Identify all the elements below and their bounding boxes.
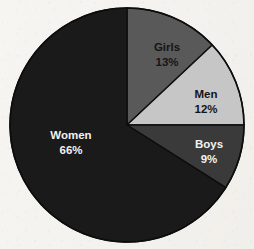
slice-label-name: Women <box>50 129 91 141</box>
slice-label-value: 9% <box>201 153 218 165</box>
slice-label-name: Girls <box>154 41 180 53</box>
slice-label-value: 66% <box>59 144 82 156</box>
slice-label-name: Boys <box>195 138 223 150</box>
pie-chart: Girls13%Men12%Boys9%Women66% <box>0 0 254 249</box>
pie-slice-layer <box>10 8 244 242</box>
slice-label-value: 13% <box>155 56 178 68</box>
slice-label-value: 12% <box>194 103 217 115</box>
pie-chart-svg: Girls13%Men12%Boys9%Women66% <box>0 0 254 249</box>
slice-label-name: Men <box>195 88 218 100</box>
